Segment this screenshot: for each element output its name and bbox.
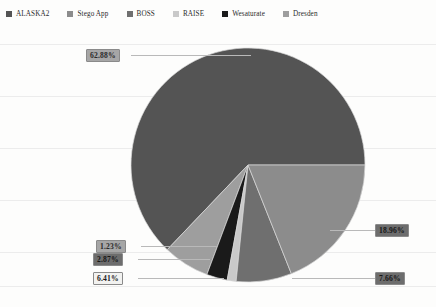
data-label-wesaturate: 2.87%	[93, 253, 123, 266]
data-label-raise: 1.23%	[96, 240, 126, 253]
pie-chart-svg	[0, 0, 436, 307]
leader-line-dresden	[138, 278, 224, 279]
pie-chart-area	[0, 0, 436, 307]
leader-line-wesaturate	[138, 259, 210, 260]
data-label-boss: 7.66%	[375, 272, 405, 285]
leader-line-raise	[141, 246, 217, 247]
data-label-stego-app: 18.96%	[375, 224, 409, 237]
data-label-dresden: 6.41%	[93, 272, 123, 285]
leader-line-stego-app	[330, 230, 376, 231]
leader-line-alaska2	[131, 55, 251, 56]
pie-chart-screenshot: ALASKA2 Stego App BOSS RAISE Wesaturate …	[0, 0, 436, 307]
data-label-alaska2: 62.88%	[86, 49, 120, 62]
leader-line-boss	[292, 278, 376, 279]
